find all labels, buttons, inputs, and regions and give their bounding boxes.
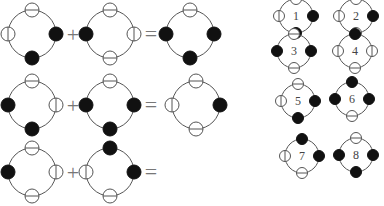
filled-dot-bottom bbox=[351, 167, 362, 178]
filled-dot-top bbox=[297, 134, 308, 145]
answer-option-8[interactable]: 8 bbox=[334, 133, 379, 178]
term-ring-b bbox=[79, 141, 141, 203]
filled-dot-right bbox=[368, 11, 379, 22]
option-number: 8 bbox=[353, 148, 359, 162]
puzzle-canvas: +=+=+= 12345678 bbox=[0, 0, 384, 206]
equation-row-1: += bbox=[1, 3, 221, 65]
answer-option-6[interactable]: 6 bbox=[330, 77, 375, 122]
filled-dot-right bbox=[207, 27, 221, 41]
plus-sign: + bbox=[67, 22, 79, 47]
filled-dot-bottom bbox=[183, 51, 197, 65]
equals-sign: = bbox=[145, 21, 157, 46]
term-ring-b bbox=[79, 3, 141, 65]
filled-dot-top bbox=[103, 141, 117, 155]
equals-sign: = bbox=[145, 159, 157, 184]
term-ring-a bbox=[1, 74, 63, 136]
filled-dot-right bbox=[49, 27, 63, 41]
term-ring-b bbox=[79, 74, 141, 136]
filled-dot-left bbox=[1, 165, 15, 179]
filled-dot-right bbox=[213, 98, 227, 112]
filled-dot-bottom bbox=[103, 122, 117, 136]
option-number: 2 bbox=[353, 9, 359, 23]
filled-dot-left bbox=[79, 27, 93, 41]
filled-dot-right bbox=[314, 151, 325, 162]
filled-dot-bottom bbox=[293, 113, 304, 124]
filled-dot-right bbox=[306, 46, 317, 57]
filled-dot-top bbox=[350, 29, 361, 40]
filled-dot-left bbox=[330, 94, 341, 105]
filled-dot-top bbox=[347, 77, 358, 88]
option-number: 7 bbox=[299, 149, 305, 163]
filled-dot-right bbox=[127, 165, 141, 179]
option-number: 5 bbox=[295, 94, 301, 108]
filled-dot-left bbox=[334, 150, 345, 161]
plus-sign: + bbox=[67, 93, 79, 118]
filled-dot-right bbox=[127, 98, 141, 112]
filled-dot-right bbox=[308, 11, 319, 22]
filled-dot-bottom bbox=[25, 51, 39, 65]
option-number: 4 bbox=[352, 44, 358, 58]
equals-sign: = bbox=[145, 92, 157, 117]
equation-row-3: += bbox=[1, 141, 157, 203]
answer-option-3[interactable]: 3 bbox=[272, 29, 317, 74]
filled-dot-right bbox=[368, 150, 379, 161]
term-ring-a bbox=[1, 3, 63, 65]
empty-dot-top bbox=[351, 0, 362, 5]
filled-dot-left bbox=[272, 46, 283, 57]
term-ring-a bbox=[1, 141, 63, 203]
equations-area: +=+=+= bbox=[1, 3, 227, 203]
filled-dot-left bbox=[159, 27, 173, 41]
option-number: 3 bbox=[291, 44, 297, 58]
answer-option-4[interactable]: 4 bbox=[333, 29, 378, 74]
filled-dot-right bbox=[310, 96, 321, 107]
empty-dot-top bbox=[291, 0, 302, 5]
plus-sign: + bbox=[67, 160, 79, 185]
option-number: 1 bbox=[293, 9, 299, 23]
result-ring bbox=[159, 3, 221, 65]
filled-dot-left bbox=[1, 98, 15, 112]
filled-dot-bottom bbox=[25, 122, 39, 136]
option-number: 6 bbox=[349, 92, 355, 106]
equation-row-2: += bbox=[1, 74, 227, 136]
answer-option-5[interactable]: 5 bbox=[276, 79, 321, 124]
filled-dot-right bbox=[364, 94, 375, 105]
answer-options-grid: 12345678 bbox=[272, 0, 379, 179]
filled-dot-left bbox=[79, 98, 93, 112]
answer-option-7[interactable]: 7 bbox=[280, 134, 325, 179]
result-ring bbox=[165, 74, 227, 136]
